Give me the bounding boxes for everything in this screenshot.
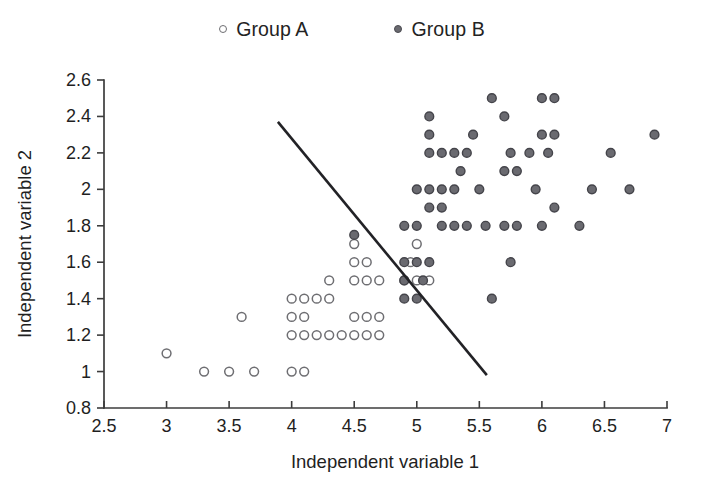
data-point-group-b	[425, 185, 434, 194]
x-tick-label: 2.5	[91, 416, 116, 436]
x-axis-title: Independent variable 1	[291, 451, 479, 472]
x-tick-label: 5	[412, 416, 422, 436]
data-point-group-b	[412, 221, 421, 230]
data-point-group-a	[287, 367, 296, 376]
y-tick-label: 2.6	[66, 70, 91, 90]
data-point-group-b	[550, 94, 559, 103]
data-point-group-b	[412, 185, 421, 194]
x-tick-label: 7	[662, 416, 672, 436]
data-point-group-b	[437, 148, 446, 157]
data-point-group-b	[588, 185, 597, 194]
data-point-group-a	[350, 276, 359, 285]
data-point-group-b	[450, 185, 459, 194]
data-point-group-b	[500, 221, 509, 230]
plot-canvas: 0.811.21.41.61.822.22.42.6 2.533.544.555…	[0, 0, 704, 497]
y-tick-label: 1.4	[66, 289, 91, 309]
data-point-group-a	[412, 240, 421, 249]
x-tick-label: 4.5	[342, 416, 367, 436]
y-tick-label: 1.2	[66, 325, 91, 345]
data-point-group-b	[506, 258, 515, 267]
data-point-group-a	[362, 312, 371, 321]
data-point-group-a	[375, 312, 384, 321]
data-point-group-b	[537, 130, 546, 139]
data-point-group-b	[400, 221, 409, 230]
data-point-group-a	[350, 312, 359, 321]
data-point-group-b	[550, 203, 559, 212]
data-point-group-b	[475, 185, 484, 194]
data-point-group-a	[337, 331, 346, 340]
data-point-group-a	[237, 312, 246, 321]
data-point-group-a	[350, 240, 359, 249]
y-tick-label: 1	[81, 362, 91, 382]
data-point-group-b	[469, 130, 478, 139]
y-tick-label: 1.6	[66, 252, 91, 272]
data-point-group-b	[544, 148, 553, 157]
data-point-group-a	[200, 367, 209, 376]
data-point-group-b	[425, 112, 434, 121]
data-point-group-a	[350, 258, 359, 267]
data-point-group-b	[525, 148, 534, 157]
data-point-group-a	[225, 367, 234, 376]
data-point-group-b	[487, 94, 496, 103]
data-point-group-b	[462, 221, 471, 230]
data-point-group-b	[462, 148, 471, 157]
data-point-group-b	[512, 167, 521, 176]
data-point-group-b	[419, 276, 428, 285]
x-axis-ticks: 2.533.544.555.566.57	[91, 401, 672, 436]
x-tick-label: 3.5	[217, 416, 242, 436]
axes	[104, 80, 667, 408]
data-point-group-b	[425, 203, 434, 212]
y-axis-title: Independent variable 2	[14, 150, 35, 338]
y-tick-label: 2	[81, 179, 91, 199]
data-point-group-b	[500, 112, 509, 121]
data-point-group-b	[625, 185, 634, 194]
x-tick-label: 5.5	[467, 416, 492, 436]
x-tick-label: 6	[537, 416, 547, 436]
data-point-group-b	[456, 167, 465, 176]
scatter-plot-figure: Group A Group B 0.811.21.41.61.822.22.42…	[0, 0, 704, 497]
x-tick-label: 3	[162, 416, 172, 436]
data-point-group-b	[412, 258, 421, 267]
data-point-group-b	[425, 130, 434, 139]
data-point-group-b	[500, 167, 509, 176]
data-point-group-a	[300, 331, 309, 340]
data-point-group-a	[287, 331, 296, 340]
y-tick-label: 2.4	[66, 106, 91, 126]
data-point-group-b	[512, 221, 521, 230]
data-point-group-a	[250, 367, 259, 376]
data-point-group-a	[362, 276, 371, 285]
y-tick-label: 1.8	[66, 216, 91, 236]
data-point-group-b	[450, 221, 459, 230]
y-tick-label: 2.2	[66, 143, 91, 163]
data-point-group-b	[350, 230, 359, 239]
x-tick-label: 4	[287, 416, 297, 436]
data-point-group-a	[325, 276, 334, 285]
data-point-group-b	[437, 185, 446, 194]
data-point-group-a	[312, 331, 321, 340]
data-point-group-b	[400, 294, 409, 303]
data-point-group-a	[287, 312, 296, 321]
series-group-b-points	[350, 94, 659, 303]
data-point-group-b	[606, 148, 615, 157]
data-point-group-a	[325, 294, 334, 303]
data-point-group-a	[300, 312, 309, 321]
data-point-group-b	[575, 221, 584, 230]
data-point-group-a	[362, 258, 371, 267]
data-point-group-a	[375, 276, 384, 285]
data-point-group-a	[312, 294, 321, 303]
data-point-group-b	[437, 221, 446, 230]
data-point-group-b	[531, 185, 540, 194]
data-point-group-b	[550, 130, 559, 139]
data-point-group-a	[300, 294, 309, 303]
data-point-group-a	[362, 331, 371, 340]
data-point-group-b	[650, 130, 659, 139]
data-point-group-a	[162, 349, 171, 358]
x-tick-label: 6.5	[592, 416, 617, 436]
data-point-group-b	[425, 258, 434, 267]
data-point-group-a	[300, 367, 309, 376]
data-point-group-a	[287, 294, 296, 303]
data-point-group-b	[481, 221, 490, 230]
data-point-group-b	[537, 221, 546, 230]
data-point-group-a	[375, 331, 384, 340]
data-point-group-b	[506, 148, 515, 157]
